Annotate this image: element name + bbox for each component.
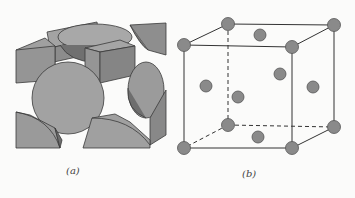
corner-atom (286, 142, 299, 155)
hard-sphere-fcc-diagram (0, 0, 170, 165)
face-center-atom-right (307, 81, 319, 93)
reduced-sphere-fcc-diagram (170, 0, 355, 165)
corner-atom (222, 119, 235, 132)
hidden-edge (228, 125, 334, 127)
face-center-atom-bottom (252, 131, 264, 143)
face-center-atom-left (200, 80, 212, 92)
corner-atom (328, 19, 341, 32)
corner-octant (83, 114, 150, 148)
face-center-atom-back (274, 68, 286, 80)
corner-atom (222, 18, 235, 31)
corner-atom (328, 121, 341, 134)
hidden-edge (184, 125, 228, 148)
corner-atom (178, 39, 191, 52)
panel-b-caption: (b) (242, 168, 256, 179)
corner-atom (286, 41, 299, 54)
face-center-atom-front (232, 91, 244, 103)
face-center-atom-top (254, 29, 266, 41)
corner-atom (178, 142, 191, 155)
panel-a-caption: (a) (66, 165, 80, 176)
